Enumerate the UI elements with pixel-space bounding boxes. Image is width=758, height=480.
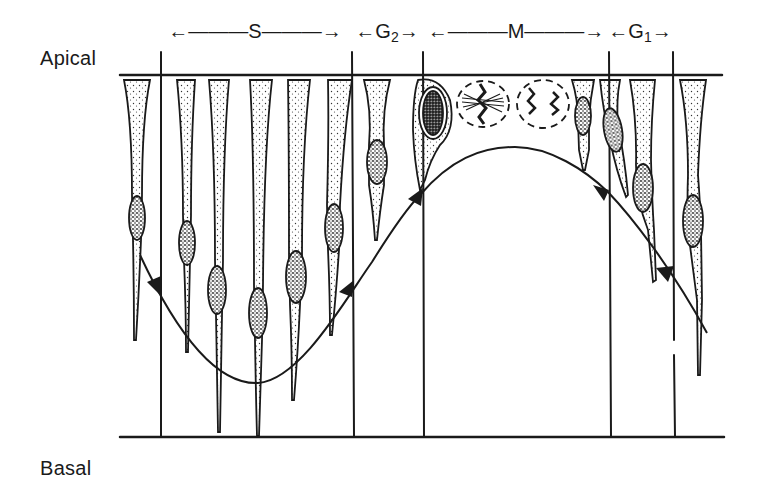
cells-group [124,79,706,436]
arrowhead-icon [593,185,609,201]
arrowhead-icon [408,188,423,206]
neuroepithelium-diagram [0,0,758,480]
arrowhead-icon [147,276,161,295]
arrowhead-icon [339,280,354,297]
